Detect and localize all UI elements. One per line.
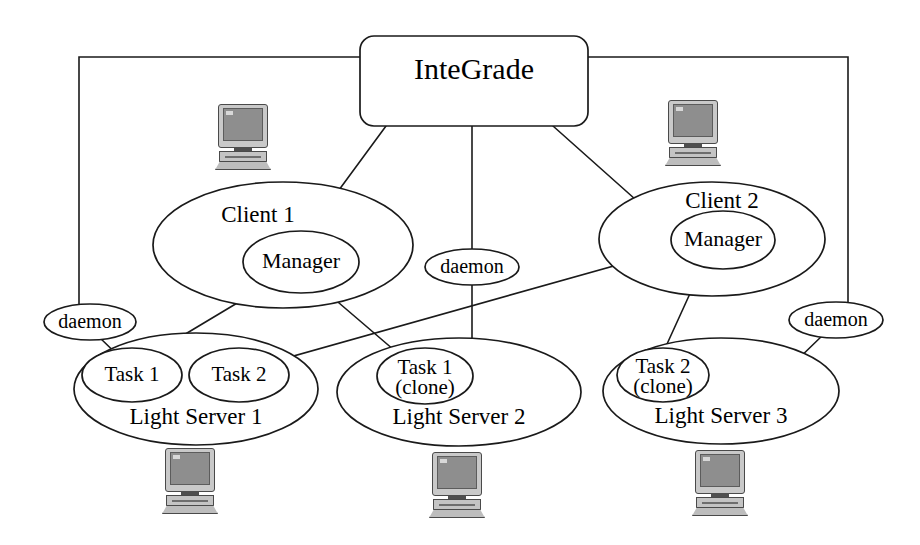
monitor-bezel [165, 448, 215, 492]
screen-glint [703, 457, 710, 461]
monitor-base [669, 147, 717, 158]
daemon-left-node[interactable]: daemon [44, 304, 136, 340]
keyboard-icon [665, 157, 721, 166]
monitor-base [433, 499, 481, 510]
client-2-manager-label: Manager [684, 226, 763, 251]
daemon-right-label: daemon [804, 308, 867, 330]
client-2-node[interactable]: Client 2 Manager [599, 182, 825, 296]
light-server-3-node[interactable]: Task 2 (clone) Light Server 3 [603, 338, 839, 444]
light-server-3-label: Light Server 3 [655, 403, 788, 428]
base-slot [225, 156, 261, 158]
daemon-left-label: daemon [58, 310, 121, 332]
light-server-1-task-1-label: Task 1 [104, 362, 159, 386]
keyboard-icon [215, 161, 271, 170]
integrade-architecture-diagram: InteGrade Client 1 Manager Client 2 Mana… [0, 0, 920, 545]
computer-icon-client-2 [665, 100, 721, 166]
computer-icon-light-server-1 [162, 448, 218, 514]
monitor-bezel [218, 104, 268, 148]
light-server-1-label: Light Server 1 [130, 404, 263, 429]
client-1-label: Client 1 [221, 202, 294, 227]
computer-icon-light-server-2 [429, 452, 485, 518]
base-slot [172, 500, 208, 502]
keyboard-icon [162, 505, 218, 514]
base-slot [439, 504, 475, 506]
light-server-2-label: Light Server 2 [393, 404, 526, 429]
screen-glint [226, 111, 233, 115]
keyboard-icon [692, 507, 748, 516]
computer-icon-light-server-3 [692, 450, 748, 516]
light-server-2-node[interactable]: Task 1 (clone) Light Server 2 [337, 338, 581, 446]
light-server-3-task-2-clone-label-line2: (clone) [633, 374, 692, 398]
daemon-center-label: daemon [440, 255, 503, 277]
integrade-node[interactable]: InteGrade [360, 36, 588, 126]
computer-icon-client-1 [215, 104, 271, 170]
monitor-base [166, 495, 214, 506]
base-slot [675, 152, 711, 154]
monitor-bezel [695, 450, 745, 494]
daemon-right-node[interactable]: daemon [789, 302, 883, 338]
client-2-label: Client 2 [685, 188, 758, 213]
monitor-bezel [668, 100, 718, 144]
monitor-screen [673, 104, 713, 137]
light-server-2-task-1-clone-label-line2: (clone) [395, 375, 454, 399]
monitor-screen [223, 108, 263, 141]
screen-glint [676, 107, 683, 111]
light-server-1-node[interactable]: Task 1 Task 2 Light Server 1 [74, 333, 318, 445]
monitor-screen [700, 454, 740, 487]
base-slot [702, 502, 738, 504]
screen-glint [440, 459, 447, 463]
monitor-bezel [432, 452, 482, 496]
integrade-label: InteGrade [414, 52, 534, 85]
keyboard-icon [429, 509, 485, 518]
screen-glint [173, 455, 180, 459]
client-1-manager-label: Manager [262, 248, 341, 273]
monitor-screen [170, 452, 210, 485]
light-server-1-task-2-label: Task 2 [211, 362, 266, 386]
monitor-screen [437, 456, 477, 489]
daemon-center-node[interactable]: daemon [425, 249, 519, 285]
monitor-base [219, 151, 267, 162]
client-1-node[interactable]: Client 1 Manager [153, 182, 413, 308]
monitor-base [696, 497, 744, 508]
